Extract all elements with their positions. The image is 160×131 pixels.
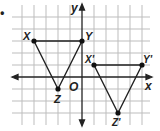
y-axis-arrow-up-icon — [80, 4, 85, 10]
label-x: X — [22, 30, 31, 42]
label-z-prime: Z' — [111, 117, 121, 128]
label-x-prime: X' — [84, 54, 95, 65]
point-x — [31, 38, 36, 43]
point-z-prime — [115, 110, 120, 115]
point-z — [55, 86, 60, 91]
y-axis-label: y — [70, 1, 79, 15]
origin-label: O — [69, 80, 79, 94]
y-axis-arrow-down-icon — [80, 120, 85, 126]
label-y-prime: Y' — [143, 54, 153, 65]
coordinate-plane: • y x O X Y Z X' Y' Z' — [0, 0, 160, 131]
bullet: • — [0, 6, 4, 20]
point-y — [79, 38, 84, 43]
x-axis-arrow-left-icon — [12, 75, 18, 80]
x-axis-label: x — [144, 79, 153, 93]
label-y: Y — [85, 30, 94, 42]
label-z: Z — [53, 93, 62, 105]
